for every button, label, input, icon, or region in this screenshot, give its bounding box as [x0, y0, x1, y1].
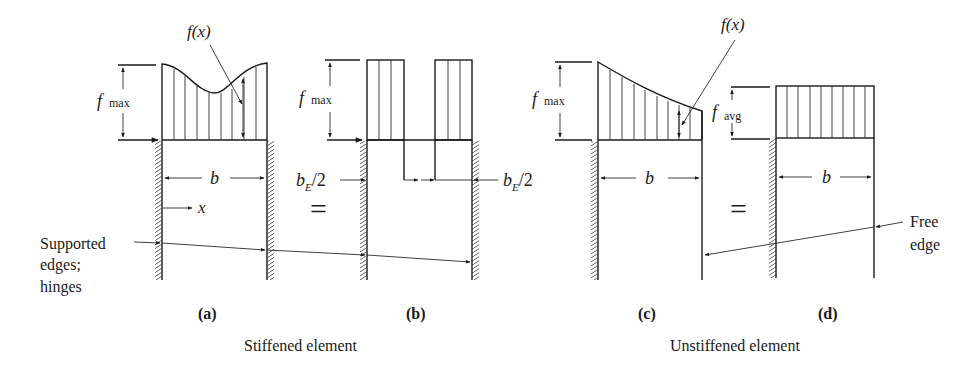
b-label-a: b	[210, 168, 219, 188]
fx-leader-a	[210, 45, 242, 104]
svg-text:f: f	[712, 102, 720, 122]
equals-sign-cd: =	[730, 192, 747, 225]
svg-text:Free: Free	[910, 213, 938, 230]
stress-hatching-d	[787, 86, 865, 138]
panel-b: f max bE/2 bE/2	[296, 60, 533, 280]
fx-label-a: f(x)	[187, 22, 211, 41]
svg-text:f: f	[532, 89, 540, 109]
be-half-label-right: bE/2	[503, 170, 533, 193]
supported-edges-annotation: Supported edges; hinges	[40, 235, 470, 296]
svg-text:edge: edge	[910, 236, 940, 254]
equals-sign-ab: =	[310, 192, 327, 225]
caption-unstiffened: Unstiffened element	[670, 337, 800, 354]
x-axis-label: x	[197, 198, 206, 217]
svg-text:edges;: edges;	[40, 256, 81, 274]
svg-text:hinges: hinges	[40, 278, 82, 296]
fmax-label-a: f	[97, 91, 105, 111]
svg-text:Supported: Supported	[40, 235, 106, 253]
fx-label-c: f(x)	[721, 15, 745, 34]
stress-curve-a	[162, 63, 267, 140]
svg-text:max: max	[109, 96, 130, 110]
svg-text:b: b	[822, 167, 831, 187]
svg-text:f: f	[299, 88, 307, 108]
svg-text:b: b	[645, 168, 654, 188]
stress-distribution-diagram: f(x) f max b x f	[0, 0, 980, 369]
stress-hatching-c	[610, 70, 690, 140]
panel-label-a: (a)	[198, 305, 217, 323]
panel-label-d: (d)	[818, 305, 838, 323]
svg-text:max: max	[544, 94, 565, 108]
panel-label-b: (b)	[406, 305, 426, 323]
be-half-label-left: bE/2	[296, 170, 326, 193]
stress-curve-c	[598, 62, 702, 140]
stress-hatching-b	[379, 60, 460, 140]
panel-d: f avg b	[712, 86, 874, 278]
panel-a: f(x) f max b x	[97, 22, 274, 280]
svg-text:avg: avg	[724, 109, 741, 123]
panel-c: f(x) f max b	[532, 15, 745, 280]
svg-text:max: max	[311, 93, 332, 107]
stress-hatching-a	[174, 67, 256, 140]
caption-stiffened: Stiffened element	[244, 337, 358, 354]
panel-label-c: (c)	[638, 305, 656, 323]
